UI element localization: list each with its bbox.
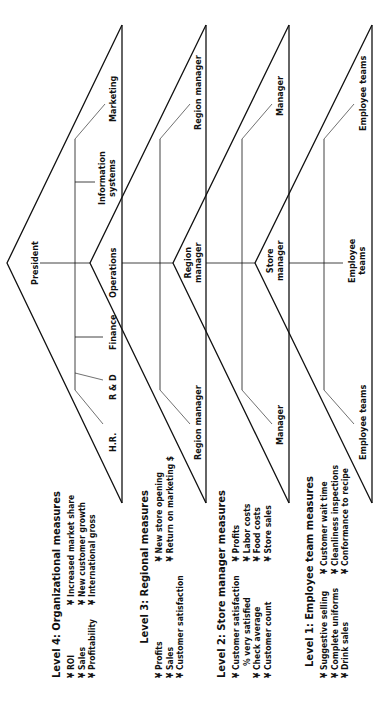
measure-item: % very satisfied xyxy=(242,575,253,678)
operations-label: Operations xyxy=(108,248,118,298)
level-3-measures: Level 3: Regional measures ¥ Profits ¥ S… xyxy=(138,456,186,678)
measure-item: ¥ Suggestive selling xyxy=(319,588,330,678)
org-measures-diagram: President H.R. R & D Finance Operations … xyxy=(0,0,387,727)
level-4-title: Level 4: Organizational measures xyxy=(50,491,63,678)
measure-item: ¥ Customer wait time xyxy=(319,465,330,574)
region-manager-top-label: Region manager xyxy=(193,55,203,130)
region-manager-mid-label: Regionmanager xyxy=(183,243,203,283)
level-2-measures: Level 2: Store manager measures ¥ Custom… xyxy=(215,490,273,678)
region-line1: Region xyxy=(183,247,193,279)
info-line1: Information xyxy=(97,151,107,205)
level-2-col1: ¥ Customer satisfaction % very satisfied… xyxy=(231,575,273,678)
measure-item: ¥ Profits xyxy=(231,504,242,562)
store-line1: Store xyxy=(265,248,275,273)
store-line2: manager xyxy=(275,241,285,281)
teams-line1: Employee xyxy=(347,239,357,283)
measure-item: ¥ International gross xyxy=(87,495,98,605)
measure-item: ¥ Return on marketing $ xyxy=(165,456,176,562)
level-3-col2: ¥ New store opening ¥ Return on marketin… xyxy=(154,456,186,562)
measure-item: ¥ Customer satisfaction xyxy=(175,575,186,678)
level-1-title: Level 1: Employee team measures xyxy=(303,465,316,678)
measure-item: ¥ Profits xyxy=(154,575,165,678)
level-2-title: Level 2: Store manager measures xyxy=(215,490,228,678)
teams-line2: teams xyxy=(357,247,367,275)
president-label: President xyxy=(30,241,40,285)
measure-item: ¥ New store opening xyxy=(154,456,165,562)
level-2-col2: ¥ Profits ¥ Labor costs ¥ Food costs ¥ S… xyxy=(231,504,273,562)
level-1-col2: ¥ Customer wait time ¥ Cleanliness inspe… xyxy=(319,465,351,574)
measure-item: ¥ Increased market share xyxy=(66,495,77,605)
measure-item: ¥ New customer growth xyxy=(77,495,88,605)
measure-item: ¥ Check average xyxy=(252,575,263,678)
manager-top-label: Manager xyxy=(275,76,285,116)
measure-item: ¥ Customer satisfaction xyxy=(231,575,242,678)
measure-item: ¥ Customer count xyxy=(263,575,274,678)
information-systems-label: Informationsystems xyxy=(97,151,117,205)
measure-item: ¥ Store sales xyxy=(263,504,274,562)
measure-item: ¥ Cleanliness inspections xyxy=(330,465,341,574)
store-manager-label: Storemanager xyxy=(265,241,285,281)
level-4-measures: Level 4: Organizational measures ¥ ROI ¥… xyxy=(50,491,98,678)
level-4-col1: ¥ ROI ¥ Sales ¥ Profitability xyxy=(66,619,98,678)
measure-item: ¥ Profitability xyxy=(87,619,98,678)
info-line2: systems xyxy=(107,159,117,197)
region-line2: manager xyxy=(193,243,203,283)
marketing-label: Marketing xyxy=(108,76,118,122)
measure-item: ¥ Conformance to recipe xyxy=(340,465,351,574)
measure-item: ¥ Labor costs xyxy=(242,504,253,562)
level-4-col2: ¥ Increased market share ¥ New customer … xyxy=(66,495,98,605)
employee-teams-bottom-label: Employee teams xyxy=(358,385,368,460)
level-3-col1: ¥ Profits ¥ Sales ¥ Customer satisfactio… xyxy=(154,575,186,678)
measure-item: ¥ Sales xyxy=(165,575,176,678)
measure-item: ¥ ROI xyxy=(66,619,77,678)
measure-item: ¥ Sales xyxy=(77,619,88,678)
level-1-measures: Level 1: Employee team measures ¥ Sugges… xyxy=(303,465,351,678)
measure-item: ¥ Complete uniforms xyxy=(330,588,341,678)
level-1-col1: ¥ Suggestive selling ¥ Complete uniforms… xyxy=(319,588,351,678)
rd-label: R & D xyxy=(108,374,118,400)
manager-bottom-label: Manager xyxy=(275,405,285,445)
measure-item: ¥ Food costs xyxy=(252,504,263,562)
employee-teams-mid-label: Employeeteams xyxy=(347,239,367,283)
hr-label: H.R. xyxy=(108,433,118,452)
finance-label: Finance xyxy=(108,314,118,350)
level-3-title: Level 3: Regional measures xyxy=(138,456,151,678)
level-4-triangle xyxy=(7,25,122,503)
measure-item: ¥ Drink sales xyxy=(340,588,351,678)
region-manager-bottom-label: Region manager xyxy=(193,385,203,460)
employee-teams-top-label: Employee teams xyxy=(358,56,368,131)
